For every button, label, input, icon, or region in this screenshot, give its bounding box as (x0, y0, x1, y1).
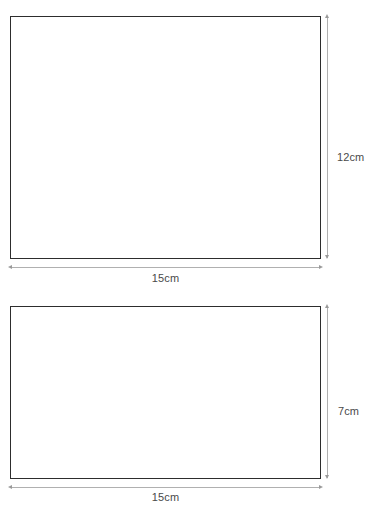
rectangle-1-width-arrow-left-icon (8, 265, 12, 269)
rectangle-2-width-arrow-right-icon (319, 485, 323, 489)
rectangle-1-width-dimension-line (11, 267, 320, 268)
rectangle-1-width-arrow-right-icon (319, 265, 323, 269)
rectangle-2-height-dimension-line (327, 307, 328, 478)
rectangle-2-height-arrow-bottom-icon (325, 475, 329, 479)
rectangle-2-width-arrow-left-icon (8, 485, 12, 489)
diagram-canvas: 12cm 15cm 7cm 15cm (0, 0, 367, 505)
rectangle-1-height-arrow-bottom-icon (325, 255, 329, 259)
rectangle-1-height-dimension-line (327, 17, 328, 258)
rectangle-2-shape (10, 306, 321, 479)
rectangle-1-shape (10, 16, 321, 259)
rectangle-2-height-label: 7cm (338, 405, 359, 417)
rectangle-2-width-dimension-line (11, 487, 320, 488)
rectangle-2-height-arrow-top-icon (325, 304, 329, 308)
rectangle-1-height-label: 12cm (337, 151, 364, 163)
rectangle-2-width-label: 15cm (10, 491, 321, 503)
rectangle-1-height-arrow-top-icon (325, 14, 329, 18)
rectangle-1-width-label: 15cm (10, 272, 321, 284)
